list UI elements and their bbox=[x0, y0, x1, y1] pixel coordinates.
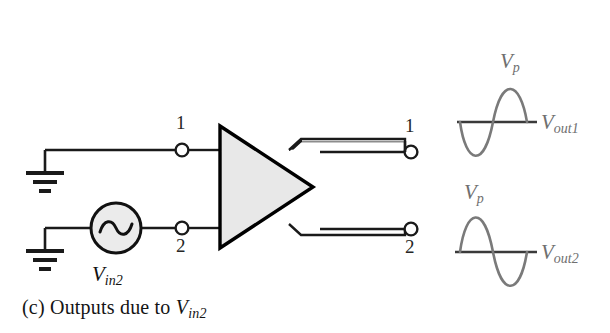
ac-voltage-source[interactable] bbox=[91, 203, 141, 253]
circuit-figure: 1 2 1 2 Vin2 Vp Vout1 Vp Vout2 (c) Outpu… bbox=[0, 0, 610, 333]
output-terminal-2[interactable] bbox=[405, 223, 418, 236]
waveform-vout1-label-v: V bbox=[541, 110, 554, 134]
input-terminal-1[interactable] bbox=[176, 144, 189, 157]
input-terminal-1-label: 1 bbox=[176, 112, 186, 134]
input-terminal-2-label: 2 bbox=[176, 235, 186, 257]
waveform-vout1-label: Vout1 bbox=[541, 110, 579, 137]
wire-amp-to-output1 bbox=[290, 141, 405, 151]
waveform-vout2-peak-v: V bbox=[464, 180, 477, 204]
figure-caption-prefix: (c) Outputs due to bbox=[22, 296, 176, 318]
waveform-vout1 bbox=[457, 89, 537, 156]
wire-output1-diag bbox=[290, 140, 302, 151]
source-label: Vin2 bbox=[92, 262, 123, 289]
figure-caption: (c) Outputs due to Vin2 bbox=[22, 296, 207, 322]
waveform-vout2-peak-sub: p bbox=[477, 191, 484, 206]
output-terminal-1-label: 1 bbox=[405, 115, 415, 137]
input-terminal-2[interactable] bbox=[176, 222, 189, 235]
waveform-vout2-label-sub: out2 bbox=[554, 251, 579, 266]
wire-output1-mask2 bbox=[290, 151, 303, 152]
waveform-vout2 bbox=[455, 217, 537, 285]
figure-caption-sub: in2 bbox=[188, 306, 207, 321]
waveform-vout1-peak-sub: p bbox=[513, 60, 520, 75]
output-terminal-2-label: 2 bbox=[405, 236, 415, 258]
source-label-sub: in2 bbox=[105, 273, 123, 288]
waveform-vout2-peak-label: Vp bbox=[464, 180, 484, 207]
waveform-vout1-peak-label: Vp bbox=[500, 49, 520, 76]
waveform-vout2-label: Vout2 bbox=[541, 240, 579, 267]
waveform-vout1-peak-v: V bbox=[500, 49, 513, 73]
figure-caption-v: V bbox=[176, 296, 188, 318]
waveform-vout2-label-v: V bbox=[541, 240, 554, 264]
waveform-vout1-label-sub: out1 bbox=[554, 121, 579, 136]
output-terminal-1[interactable] bbox=[405, 146, 418, 159]
ground-icon-top bbox=[26, 150, 64, 191]
ground-icon-bottom bbox=[26, 228, 64, 269]
source-label-v: V bbox=[92, 262, 105, 286]
